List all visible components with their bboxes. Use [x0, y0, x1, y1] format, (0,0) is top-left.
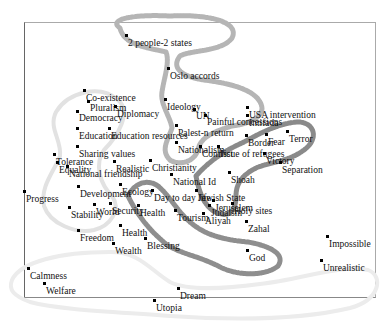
- point-marker: [279, 161, 282, 164]
- point-label: Intifada: [249, 118, 279, 128]
- point-marker: [119, 224, 122, 227]
- point-marker: [164, 98, 167, 101]
- point-label: Welfare: [46, 286, 76, 296]
- point-marker: [68, 206, 71, 209]
- point-marker: [246, 249, 249, 252]
- point-label: Wealth: [115, 246, 142, 256]
- point-label: Fear: [268, 137, 285, 147]
- point-label: Unrealistic: [323, 263, 365, 273]
- point-marker: [53, 153, 56, 156]
- point-marker: [114, 105, 117, 108]
- point-marker: [43, 282, 46, 285]
- point-marker: [245, 220, 248, 223]
- point-label: Diplomacy: [117, 109, 159, 119]
- point-marker: [137, 204, 140, 207]
- point-marker: [217, 145, 220, 148]
- point-marker: [246, 106, 249, 109]
- point-label: Holy sites: [234, 206, 272, 216]
- point-label: God: [249, 253, 265, 263]
- point-marker: [125, 34, 128, 37]
- point-marker: [151, 189, 154, 192]
- point-marker: [167, 67, 170, 70]
- point-label: Education resources: [111, 131, 188, 141]
- point-marker: [265, 133, 268, 136]
- point-marker: [320, 259, 323, 262]
- point-marker: [112, 242, 115, 245]
- point-marker: [144, 237, 147, 240]
- point-label: Realistic: [116, 164, 149, 174]
- point-label: Progress: [26, 194, 59, 204]
- point-label: Co-existence: [86, 93, 136, 103]
- point-marker: [175, 124, 178, 127]
- point-label: 2 people-2 states: [128, 38, 192, 48]
- point-marker: [149, 159, 152, 162]
- point-marker: [109, 202, 112, 205]
- point-label: Health: [140, 208, 165, 218]
- point-marker: [246, 114, 249, 117]
- point-label: Ecology: [122, 187, 154, 197]
- point-label: Shoah: [231, 175, 255, 185]
- point-marker: [174, 209, 177, 212]
- point-marker: [202, 212, 205, 215]
- point-label: Oslo accords: [170, 71, 219, 81]
- point-marker: [93, 203, 96, 206]
- point-marker: [153, 299, 156, 302]
- point-label: Palest-n return: [178, 128, 234, 138]
- point-label: Dream: [180, 291, 206, 301]
- point-marker: [77, 229, 80, 232]
- point-marker: [177, 287, 180, 290]
- point-marker: [199, 145, 202, 148]
- point-label: Utopia: [156, 303, 182, 313]
- point-label: Impossible: [329, 239, 371, 249]
- point-label: Calmness: [30, 271, 67, 281]
- point-label: Zahal: [248, 224, 270, 234]
- point-marker: [113, 160, 116, 163]
- point-marker: [23, 190, 26, 193]
- point-marker: [326, 235, 329, 238]
- point-marker: [175, 141, 178, 144]
- point-marker: [27, 267, 30, 270]
- point-label: Christianity: [152, 163, 197, 173]
- point-marker: [286, 130, 289, 133]
- point-marker: [108, 127, 111, 130]
- point-marker: [66, 165, 69, 168]
- point-label: Jewish State: [198, 193, 245, 203]
- point-label: Separation: [282, 165, 323, 175]
- point-marker: [263, 152, 266, 155]
- point-label: Freedom: [80, 233, 114, 243]
- point-marker: [76, 127, 79, 130]
- point-marker: [56, 161, 59, 164]
- point-label: Aliyah: [205, 216, 231, 226]
- point-marker: [76, 145, 79, 148]
- point-label: Terror: [289, 134, 313, 144]
- point-marker: [77, 185, 80, 188]
- point-marker: [119, 183, 122, 186]
- point-marker: [212, 199, 215, 202]
- point-marker: [245, 134, 248, 137]
- point-label: Security: [112, 206, 144, 216]
- point-marker: [170, 173, 173, 176]
- point-marker: [228, 171, 231, 174]
- point-marker: [195, 189, 198, 192]
- point-marker: [83, 89, 86, 92]
- point-marker: [231, 202, 234, 205]
- point-label: Blessing: [147, 241, 180, 251]
- point-label: National Id: [173, 177, 216, 187]
- point-marker: [208, 204, 211, 207]
